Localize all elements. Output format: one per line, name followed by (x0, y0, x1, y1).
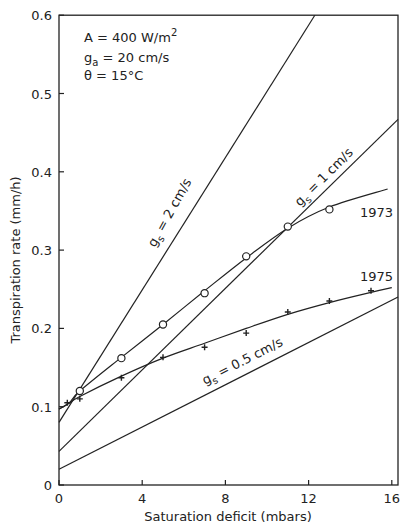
data-point-circle (159, 321, 166, 328)
series-curve (59, 288, 392, 409)
series-line (59, 119, 398, 451)
y-tick-label: 0.2 (31, 321, 52, 336)
label-1973: 1973 (360, 205, 393, 220)
data-point-circle (118, 355, 125, 362)
data-point-circle (243, 253, 250, 260)
annotation-ga: ga = 20 cm/s (84, 50, 169, 68)
data-point-cross (202, 344, 208, 350)
y-tick-label: 0.3 (31, 243, 52, 258)
data-point-circle (284, 223, 291, 230)
data-point-circle (326, 206, 333, 213)
data-point-circle (201, 290, 208, 297)
y-tick-label: 0 (44, 478, 52, 493)
plot-frame (59, 15, 398, 485)
annotation-radiation: A = 400 W/m2 (84, 27, 177, 45)
x-tick-label: 12 (300, 491, 317, 506)
series-line (59, 297, 398, 469)
x-tick-label: 16 (384, 491, 401, 506)
data-point-circle (76, 387, 83, 394)
y-tick-label: 0.4 (31, 165, 52, 180)
chart: 00.10.20.30.40.50.60481216 Saturation de… (0, 0, 409, 530)
label-gs-0-5: gs = 0.5 cm/s (200, 334, 287, 390)
y-tick-label: 0.5 (31, 87, 52, 102)
y-tick-label: 0.6 (31, 8, 52, 23)
annotation-temperature: θ = 15°C (84, 68, 143, 83)
labels: Saturation deficit (mbars)Transpiration … (8, 27, 393, 524)
plot-area (59, 15, 398, 469)
x-axis-title: Saturation deficit (mbars) (144, 509, 311, 524)
y-axis-title: Transpiration rate (mm/h) (8, 176, 23, 344)
label-1975: 1975 (360, 269, 393, 284)
label-gs-2: gs = 2 cm/s (145, 176, 198, 251)
data-point-cross (243, 330, 249, 336)
x-tick-label: 8 (221, 491, 229, 506)
y-tick-label: 0.1 (31, 400, 52, 415)
data-point-cross (77, 396, 83, 402)
x-tick-label: 0 (55, 491, 63, 506)
x-tick-label: 4 (138, 491, 146, 506)
